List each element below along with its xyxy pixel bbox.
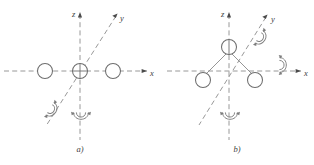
axis-z-arrowhead: [227, 12, 231, 18]
atom-right: [106, 64, 121, 79]
axis-y-label: y: [270, 14, 275, 24]
axis-x-arrowhead: [296, 69, 301, 73]
rotation-symbol-axis-x: [279, 55, 287, 75]
rotation-symbol-axis-y: [44, 100, 61, 121]
panel-b-caption: b): [233, 144, 240, 154]
axis-x-label: x: [149, 68, 154, 78]
axis-y-arrowhead: [262, 14, 267, 19]
molecular-symmetry-figure: x z y a): [0, 0, 314, 165]
rotation-symbol-axis-z: [220, 112, 240, 120]
axis-y-arrowhead: [112, 13, 117, 18]
bond-apex-left: [206, 54, 226, 74]
atom-left: [38, 64, 53, 79]
axis-x-arrowhead: [142, 69, 147, 73]
panel-b: x z y: [167, 9, 308, 154]
panel-b-axes: x z y: [167, 9, 308, 140]
axis-y-label: y: [119, 13, 124, 23]
panel-a: x z y a): [4, 9, 154, 154]
atom-lower-left: [196, 73, 211, 88]
atom-lower-right: [248, 73, 263, 88]
axis-z-arrowhead: [78, 12, 82, 18]
axis-z-label: z: [220, 9, 225, 19]
axis-z-label: z: [71, 9, 76, 19]
rotation-symbol-axis-y: [253, 28, 270, 49]
figure-container: x z y a): [0, 0, 314, 165]
panel-a-caption: a): [76, 144, 83, 154]
rotation-symbol-axis-z: [71, 112, 91, 120]
panel-a-atoms: [38, 64, 121, 79]
axis-x-label: x: [303, 68, 308, 78]
